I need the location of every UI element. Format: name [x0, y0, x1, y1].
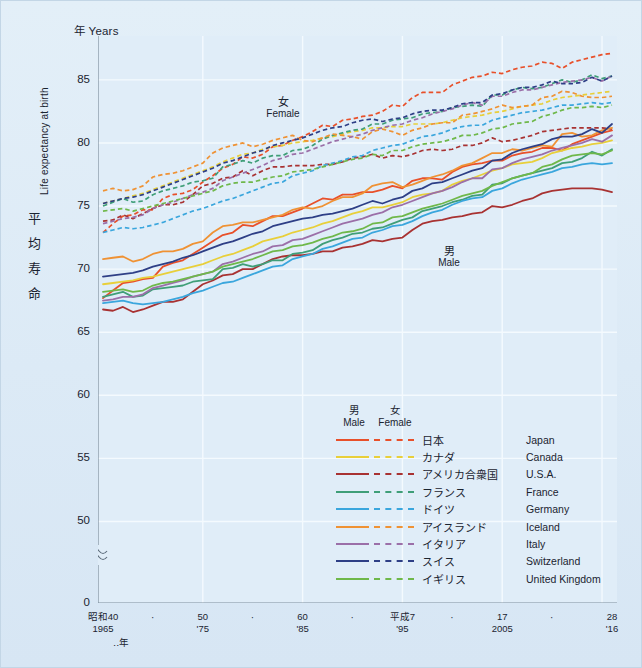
x-tick-minor-marker: · [550, 612, 553, 623]
y-tick-75: 75 [64, 200, 90, 211]
legend-header-male-en: Male [343, 417, 365, 428]
legend-line-solid-icon [336, 543, 369, 545]
y-tick-80: 80 [64, 137, 90, 148]
legend-swatch-female [371, 555, 416, 567]
legend-line-solid-icon [336, 439, 369, 441]
legend-line-dashed-icon [374, 543, 414, 545]
x-tick-era: 平成7 [368, 611, 436, 623]
annotation-male: 男 Male [419, 245, 479, 269]
chart-legend: 男 Male 女 Female 日本JapanカナダCanadaアメリカ合衆国U… [334, 405, 601, 588]
legend-swatch-female [371, 538, 416, 550]
x-tick-era: 60 [269, 611, 337, 623]
x-tick-group-2016: 28'16 [578, 611, 642, 634]
legend-line-solid-icon [336, 473, 369, 475]
x-tick-group-2005: 172005 [468, 611, 536, 634]
y-tick-85: 85 [64, 74, 90, 85]
x-tick-year: '75 [169, 623, 237, 635]
legend-row[interactable]: アメリカ合衆国U.S.A. [334, 466, 601, 483]
x-tick-era: 50 [169, 611, 237, 623]
legend-row[interactable]: アイスランドIceland [334, 518, 601, 535]
legend-line-dashed-icon [374, 439, 414, 441]
legend-swatch-female [371, 521, 416, 533]
legend-swatch-male [334, 486, 371, 498]
legend-row[interactable]: フランスFrance [334, 483, 601, 500]
legend-label-jp: ドイツ [416, 501, 526, 517]
legend-line-solid-icon [336, 560, 369, 562]
legend-header-male: 男 Male [334, 405, 374, 428]
x-tick-year: '85 [269, 623, 337, 635]
legend-label-en: Canada [526, 451, 563, 463]
legend-label-jp: カナダ [416, 449, 526, 465]
legend-line-dashed-icon [374, 508, 414, 510]
legend-line-dashed-icon [374, 526, 414, 528]
legend-swatch-male [334, 538, 371, 550]
legend-label-en: France [526, 486, 559, 498]
legend-header-female-en: Female [378, 417, 411, 428]
legend-label-jp: 日本 [416, 432, 526, 448]
legend-line-dashed-icon [374, 578, 414, 580]
y-axis-title-jp: 平均寿命 [25, 206, 43, 306]
annotation-male-jp: 男 [419, 245, 479, 257]
annotation-female-jp: 女 [253, 96, 313, 108]
x-tick-year: 2005 [468, 623, 536, 635]
legend-swatch-male [334, 451, 371, 463]
annotation-female-en: Female [253, 108, 313, 120]
legend-swatch-female [371, 468, 416, 480]
legend-row[interactable]: イギリスUnited Kingdom [334, 570, 601, 587]
legend-line-dashed-icon [374, 456, 414, 458]
legend-label-en: Japan [526, 434, 555, 446]
legend-row[interactable]: イタリアItaly [334, 535, 601, 552]
legend-swatch-male [334, 434, 371, 446]
x-tick-year: '95 [368, 623, 436, 635]
y-tick-65: 65 [64, 326, 90, 337]
x-tick-era: 17 [468, 611, 536, 623]
x-tick-minor-marker: · [251, 612, 254, 623]
legend-line-solid-icon [336, 456, 369, 458]
legend-label-en: United Kingdom [526, 573, 601, 585]
y-tick-0: 0 [64, 597, 90, 608]
annotation-female: 女 Female [253, 96, 313, 120]
legend-swatch-male [334, 573, 371, 585]
legend-label-jp: フランス [416, 484, 526, 500]
legend-line-solid-icon [336, 508, 369, 510]
legend-line-solid-icon [336, 578, 369, 580]
x-tick-minor-marker: · [450, 612, 453, 623]
legend-swatch-male [334, 468, 371, 480]
legend-row[interactable]: 日本Japan [334, 431, 601, 448]
legend-header-female: 女 Female [371, 405, 419, 428]
legend-line-solid-icon [336, 491, 369, 493]
annotation-male-en: Male [419, 257, 479, 269]
legend-swatch-male [334, 503, 371, 515]
y-axis-title-en: Life expectancy at birth [39, 87, 50, 195]
x-tick-era: 昭和40 [69, 611, 137, 623]
legend-swatch-female [371, 573, 416, 585]
legend-label-en: U.S.A. [526, 468, 556, 480]
legend-label-jp: スイス [416, 553, 526, 569]
legend-label-jp: アイスランド [416, 519, 526, 535]
x-tick-minor-marker: · [151, 612, 154, 623]
legend-row[interactable]: ドイツGermany [334, 501, 601, 518]
legend-swatch-female [371, 434, 416, 446]
legend-row[interactable]: カナダCanada [334, 448, 601, 465]
legend-label-en: Iceland [526, 521, 560, 533]
legend-label-en: Italy [526, 538, 545, 550]
x-tick-era: 28 [578, 611, 642, 623]
legend-row[interactable]: スイスSwitzerland [334, 553, 601, 570]
y-tick-60: 60 [64, 389, 90, 400]
legend-header-female-jp: 女 [371, 405, 419, 417]
chart-figure: 年 Years 平均寿命 Life expectancy at birth 50… [0, 0, 642, 668]
legend-line-solid-icon [336, 526, 369, 528]
legend-swatch-female [371, 451, 416, 463]
legend-line-dashed-icon [374, 560, 414, 562]
legend-label-jp: イギリス [416, 571, 526, 587]
legend-rows: 日本JapanカナダCanadaアメリカ合衆国U.S.A.フランスFranceド… [334, 431, 601, 588]
x-axis-unit-label: ‥年 [113, 635, 129, 649]
legend-swatch-male [334, 555, 371, 567]
x-tick-year: '16 [578, 623, 642, 635]
legend-swatch-male [334, 521, 371, 533]
y-tick-55: 55 [64, 452, 90, 463]
x-tick-group-1975: 50'75 [169, 611, 237, 634]
x-tick-minor-marker: · [351, 612, 354, 623]
x-tick-year: 1965 [69, 623, 137, 635]
legend-line-dashed-icon [374, 491, 414, 493]
